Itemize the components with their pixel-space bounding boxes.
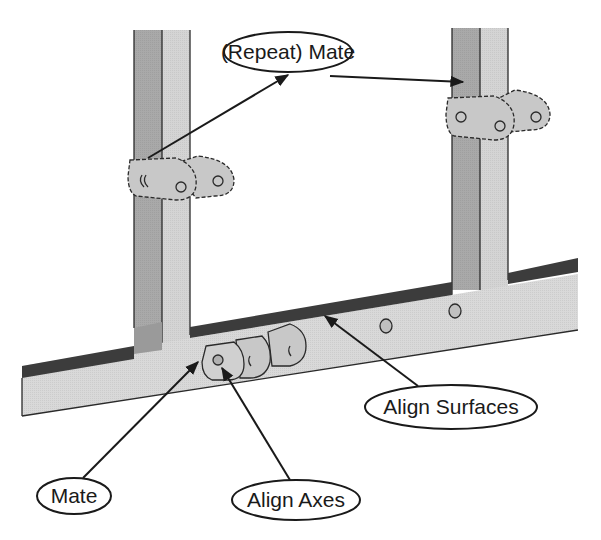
callout-repeat-mate-label: (Repeat) Mate	[221, 40, 355, 63]
right-post-bracket	[446, 90, 550, 140]
callout-align-surfaces: Align Surfaces	[365, 385, 537, 429]
callout-align-axes: Align Axes	[232, 480, 360, 520]
left-post-bracket	[128, 156, 234, 200]
callout-align-axes-label: Align Axes	[247, 488, 345, 511]
callout-align-surfaces-label: Align Surfaces	[383, 395, 518, 418]
right-post	[452, 28, 508, 295]
callout-mate-label: Mate	[51, 484, 98, 507]
assembly-diagram: (Repeat) Mate Mate Align Axes Align Surf…	[0, 0, 601, 540]
callout-mate: Mate	[37, 478, 111, 514]
callout-repeat-mate: (Repeat) Mate	[221, 32, 355, 72]
